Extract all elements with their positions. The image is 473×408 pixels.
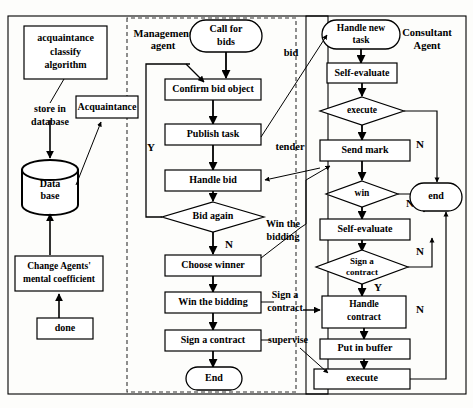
node-database-line2: base	[41, 190, 60, 201]
node-acquaintance-label: Acquaintance	[78, 101, 137, 112]
edge-database-to-acquaintance	[76, 122, 101, 185]
node-execute-decision-label: execute	[347, 105, 377, 115]
node-handle-new-task-line2: task	[353, 35, 371, 45]
node-sign-a-contract-label: Sign a contract	[181, 334, 246, 345]
node-done-label: done	[55, 322, 76, 333]
label-tender: tender	[275, 141, 304, 152]
node-handle-contract-line2: contract	[347, 312, 382, 322]
container-label-management-line2: agent	[151, 40, 176, 51]
label-sign-contract-yes: Y	[374, 281, 382, 293]
flowchart-svg: Management agent Consultant Agent acquai…	[0, 0, 473, 408]
label-bid: bid	[284, 47, 299, 58]
node-choose-winner-label: Choose winner	[181, 259, 245, 270]
node-handle-contract-line1: Handle	[349, 299, 379, 309]
flowchart-canvas: Management agent Consultant Agent acquai…	[0, 0, 473, 408]
node-self-evaluate-2-label: Self-evaluate	[338, 223, 394, 234]
node-sign-contract-decision-line2: contract	[346, 267, 378, 277]
container-label-consultant-line2: Agent	[414, 40, 441, 51]
node-put-in-buffer-label: Put in buffer	[338, 342, 394, 353]
node-self-evaluate-1-label: Self-evaluate	[335, 67, 391, 78]
label-bid-again-yes: Y	[147, 141, 155, 153]
node-end-management-label: End	[205, 372, 223, 383]
node-publish-task-label: Publish task	[187, 128, 240, 139]
node-end-consultant-label: end	[428, 190, 444, 201]
container-label-consultant-line1: Consultant	[402, 27, 452, 38]
label-sign-contract-no: N	[416, 245, 424, 257]
edge-tender-sendmark-to-handlebid	[265, 168, 320, 180]
label-win-the-bidding-line1: Win the	[266, 218, 301, 229]
node-bid-again-label: Bid again	[193, 210, 234, 221]
label-sign-a-contract-line2: contract	[267, 302, 303, 313]
node-execute-box-label: execute	[346, 372, 378, 383]
node-change-agents-line1: Change Agents'	[27, 261, 91, 271]
label-bid-again-no: N	[225, 238, 233, 250]
node-confirm-bid-object-label: Confirm bid object	[172, 83, 254, 94]
node-acquaintance-classify-algorithm-line2: classify	[50, 46, 81, 57]
label-store-in-database-line1: store in	[34, 103, 66, 114]
node-change-agents-line2: mental coefficient	[23, 274, 96, 284]
node-call-for-bids-line2: bids	[217, 36, 235, 47]
label-sign-a-contract-line1: Sign a	[272, 289, 298, 300]
node-win-decision-label: win	[355, 188, 371, 198]
node-database-line1: Data	[40, 178, 61, 189]
edge-executebox-no-to-end	[410, 212, 446, 379]
label-supervise: supervise	[268, 334, 309, 345]
container-label-management-line1: Management	[134, 28, 193, 39]
node-sign-contract-decision-line1: Sign a	[350, 256, 374, 266]
node-acquaintance-classify-algorithm-line3: algorithm	[44, 59, 87, 70]
node-send-mark-label: Send mark	[342, 144, 389, 155]
node-handle-bid-label: Handle bid	[189, 174, 237, 185]
label-execute-no: N	[416, 138, 424, 150]
node-acquaintance-classify-algorithm-line1: acquaintance	[37, 32, 94, 43]
label-execute-box-no: N	[416, 303, 424, 315]
node-handle-new-task-line1: Handle new	[337, 23, 385, 33]
node-call-for-bids-line1: Call for	[209, 23, 243, 34]
label-store-in-database-line2: database	[31, 116, 69, 127]
label-win-the-bidding-line2: bidding	[267, 231, 300, 242]
edge-algorithm-to-database	[50, 79, 64, 103]
node-win-the-bidding-label: Win the bidding	[178, 296, 247, 307]
